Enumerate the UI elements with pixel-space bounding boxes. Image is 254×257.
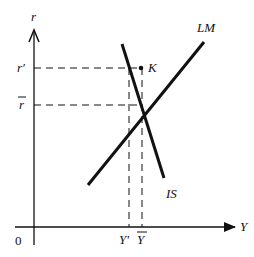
y-bar-tick-label: Y [137,232,146,247]
point-k-marker [139,66,144,71]
y-prime-tick-label: Y′ [119,232,129,247]
r-bar-tick-label: r [19,97,25,112]
lm-label: LM [196,20,216,35]
is-label: IS [165,186,177,201]
origin-label: 0 [15,233,22,248]
lm-curve [88,42,204,185]
is-curve [122,44,164,178]
r-prime-tick-label: r′ [17,60,25,75]
point-k-label: K [147,60,158,75]
x-axis-label: Y [240,219,249,234]
x-axis-arrow-icon [224,222,236,232]
y-axis-label: r [31,9,37,24]
is-lm-diagram: r Y 0 LM IS K r′ r Y′ Y [0,0,254,257]
